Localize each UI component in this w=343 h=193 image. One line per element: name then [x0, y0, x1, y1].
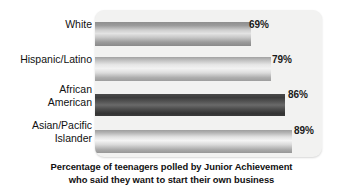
category-label-white: White — [0, 18, 92, 31]
bar-asian-pacific-islander — [95, 130, 292, 153]
plot-panel — [95, 10, 322, 157]
bar-asian-pacific-islander-fill — [95, 130, 292, 153]
category-label-hispanic-latino: Hispanic/Latino — [0, 53, 92, 66]
chart-caption-line-2: who said they want to start their own bu… — [0, 173, 343, 186]
bar-white-fill — [95, 22, 251, 46]
bar-african-american — [95, 94, 285, 116]
chart-caption-line-1: Percentage of teenagers polled by Junior… — [0, 160, 343, 173]
bar-hispanic-latino-fill — [95, 57, 271, 81]
bar-hispanic-latino — [95, 57, 271, 81]
bar-african-american-fill — [95, 94, 285, 116]
bar-chart-figure: White Hispanic/Latino African American A… — [0, 0, 343, 193]
chart-caption: Percentage of teenagers polled by Junior… — [0, 160, 343, 186]
value-label-african-american: 86% — [288, 89, 308, 100]
value-label-white: 69% — [249, 19, 269, 30]
value-label-hispanic-latino: 79% — [272, 54, 292, 65]
value-label-asian-pacific-islander: 89% — [294, 125, 314, 136]
category-label-asian-pacific-islander: Asian/Pacific Islander — [0, 119, 92, 144]
category-label-african-american: African American — [0, 83, 92, 108]
bar-white — [95, 22, 251, 46]
